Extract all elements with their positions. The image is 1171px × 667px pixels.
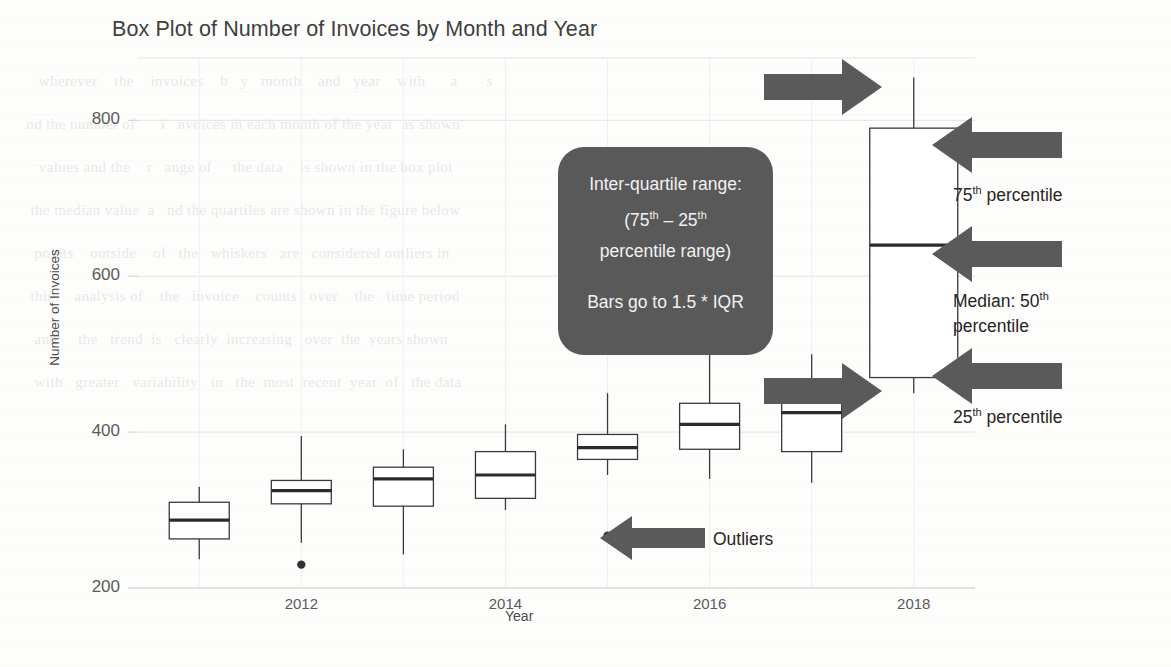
box-2013: [373, 449, 433, 554]
annot-25-sup: th: [972, 406, 981, 418]
callout-sup-75: th: [649, 209, 658, 221]
box-plot-figure: Box Plot of Number of Invoices by Month …: [0, 0, 1171, 667]
annot-25-post: percentile: [982, 407, 1063, 427]
y-tick-label-400: 400: [60, 421, 120, 441]
annotation-75th-percentile: 75th percentile: [953, 178, 1062, 208]
outlier-point-2012-0: [297, 560, 305, 568]
callout-line-1: Inter-quartile range:: [558, 169, 773, 200]
annot-75-sup: th: [972, 184, 981, 196]
box-2016: [680, 350, 740, 479]
annot-median-line2: percentile: [953, 314, 1049, 339]
box-2018: [870, 77, 958, 393]
axis-lines: [128, 120, 975, 588]
y-axis-title: Number of Invoices: [47, 228, 62, 388]
annot-median-sup: th: [1040, 290, 1049, 302]
callout-spacer: [558, 267, 773, 287]
box-2017: [782, 354, 842, 483]
y-tick-label-600: 600: [60, 265, 120, 285]
y-tick-label-800: 800: [60, 109, 120, 129]
x-tick-label-2016: 2016: [675, 595, 745, 612]
box-rect-2013: [373, 467, 433, 506]
box-2011: [169, 487, 229, 559]
callout-line2-pre: (75: [624, 210, 649, 230]
box-rect-2016: [680, 403, 740, 449]
x-tick-label-2014: 2014: [470, 595, 540, 612]
annot-median-line1: Median: 50th: [953, 284, 1049, 314]
gridlines: [138, 58, 975, 588]
callout-line2-mid: – 25: [659, 210, 698, 230]
callout-line-2: (75th – 25th: [558, 200, 773, 236]
callout-line-3: percentile range): [558, 236, 773, 267]
iqr-callout: Inter-quartile range: (75th – 25th perce…: [558, 147, 773, 355]
arrow-upper-whisker: [764, 59, 882, 115]
annotation-outliers: Outliers: [713, 527, 773, 552]
callout-sup-25: th: [698, 209, 707, 221]
x-tick-label-2012: 2012: [266, 595, 336, 612]
annot-75-pre: 75: [953, 185, 972, 205]
annot-25-pre: 25: [953, 407, 972, 427]
callout-line-4: Bars go to 1.5 * IQR: [558, 287, 773, 318]
page-title: Box Plot of Number of Invoices by Month …: [112, 17, 597, 42]
x-tick-label-2018: 2018: [879, 595, 949, 612]
box-2014: [475, 424, 535, 510]
arrow-outliers: [600, 516, 705, 560]
annot-median-pre: Median: 50: [953, 291, 1040, 311]
annotation-median-50th-percentile: Median: 50th percentile: [953, 284, 1049, 339]
annotation-25th-percentile: 25th percentile: [953, 400, 1062, 430]
y-tick-label-200: 200: [60, 577, 120, 597]
annot-75-post: percentile: [982, 185, 1063, 205]
